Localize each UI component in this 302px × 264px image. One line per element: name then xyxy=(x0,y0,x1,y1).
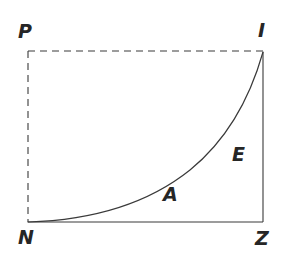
exponential-curve xyxy=(28,52,263,222)
vertex-label-n: N xyxy=(18,228,34,247)
region-label-e: E xyxy=(232,145,245,164)
vertex-label-p: P xyxy=(18,22,32,41)
region-label-a: A xyxy=(163,185,178,204)
vertex-label-i: I xyxy=(258,21,265,40)
vertex-label-z: Z xyxy=(255,229,269,248)
figure-canvas xyxy=(0,0,302,264)
geometric-figure: P I Z N E A xyxy=(0,0,302,264)
